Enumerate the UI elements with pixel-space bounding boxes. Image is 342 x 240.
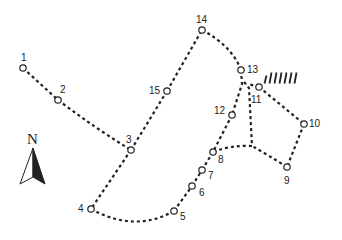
node-10-label: 10 <box>309 119 320 129</box>
node-4-label: 4 <box>78 204 84 214</box>
path-1-2 <box>23 68 58 100</box>
path-3-15 <box>131 91 167 150</box>
path-13-junction <box>244 82 252 146</box>
node-6-marker <box>189 183 195 189</box>
node-13-label: 13 <box>247 65 258 75</box>
hatch-line <box>285 73 287 84</box>
path-11-10 <box>259 87 304 124</box>
hatch-line <box>270 73 272 84</box>
path-3-4 <box>91 150 131 209</box>
hatch-line <box>280 73 282 84</box>
node-8-label: 8 <box>218 155 224 165</box>
node-8-marker <box>210 149 216 155</box>
node-11-label: 11 <box>251 95 261 105</box>
node-7-label: 7 <box>208 171 214 181</box>
hatch-line <box>275 73 277 84</box>
path-13-12 <box>232 70 242 115</box>
hatch-line <box>265 76 267 84</box>
north-arrow-icon <box>20 148 45 184</box>
path-14-13 <box>202 30 241 70</box>
path-5-6 <box>174 186 192 211</box>
node-6-label: 6 <box>199 188 205 198</box>
paths-layer <box>23 30 304 222</box>
node-12-marker <box>229 112 235 118</box>
path-4-5 <box>91 209 174 222</box>
route-diagram: N 123456789101112131415 <box>0 0 342 240</box>
hatch-line <box>295 73 297 84</box>
path-junction-8 <box>213 146 252 152</box>
node-10-marker <box>301 121 307 127</box>
node-4-marker <box>88 206 94 212</box>
node-2-marker <box>55 97 61 103</box>
node-5-label: 5 <box>180 212 186 222</box>
path-10-9 <box>287 124 304 167</box>
hatch-line <box>290 73 292 84</box>
node-5-marker <box>171 208 177 214</box>
node-13-marker <box>238 67 244 73</box>
node-14-label: 14 <box>196 15 207 25</box>
node-9-label: 9 <box>284 176 290 186</box>
nodes-layer <box>20 27 307 214</box>
node-3-marker <box>128 147 134 153</box>
node-12-label: 12 <box>214 106 225 116</box>
node-9-marker <box>284 164 290 170</box>
node-3-label: 3 <box>126 135 132 145</box>
node-1-marker <box>20 65 26 71</box>
node-7-marker <box>199 167 205 173</box>
diagram-canvas <box>0 0 342 240</box>
node-1-label: 1 <box>21 53 27 63</box>
node-15-label: 15 <box>149 86 160 96</box>
node-14-marker <box>199 27 205 33</box>
node-15-marker <box>164 88 170 94</box>
path-2-3 <box>58 100 131 150</box>
path-9-junction <box>252 146 287 167</box>
path-12-8 <box>213 115 232 152</box>
path-15-14 <box>167 30 202 91</box>
node-2-label: 2 <box>60 85 66 95</box>
cliff-hatch-mark <box>265 73 297 84</box>
north-label: N <box>27 132 38 147</box>
node-11-marker <box>256 84 262 90</box>
